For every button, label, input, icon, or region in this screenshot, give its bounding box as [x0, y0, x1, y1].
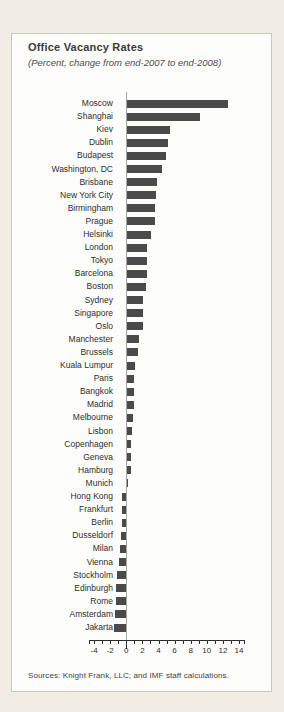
- vacancy-bar: [127, 388, 133, 396]
- vacancy-bar: [127, 113, 199, 121]
- city-label: Bangkok: [12, 385, 113, 398]
- bar-row: New York City: [12, 189, 271, 202]
- vacancy-bar: [127, 178, 157, 186]
- city-label: Paris: [12, 372, 113, 385]
- vacancy-bar: [127, 309, 143, 317]
- bar-row: Hong Kong: [12, 490, 271, 503]
- city-label: Brisbane: [12, 176, 113, 189]
- city-label: Kiev: [12, 123, 113, 136]
- bar-row: Kiev: [12, 123, 271, 136]
- bar-row: Frankfurt: [12, 503, 271, 516]
- bar-row: Washington, DC: [12, 163, 271, 176]
- bar-row: Shanghai: [12, 110, 271, 123]
- bar-row: Geneva: [12, 451, 271, 464]
- vacancy-bar: [122, 506, 126, 514]
- vacancy-bar: [122, 519, 126, 527]
- city-label: Oslo: [12, 320, 113, 333]
- vacancy-bar: [127, 139, 168, 147]
- vacancy-bar: [127, 440, 131, 448]
- bar-row: Edinburgh: [12, 582, 271, 595]
- vacancy-bar: [116, 597, 126, 605]
- vacancy-bar: [127, 191, 156, 199]
- vacancy-bar: [127, 296, 143, 304]
- vacancy-bar: [116, 584, 126, 592]
- x-tick-label: 14: [229, 646, 249, 655]
- vacancy-bar: [114, 624, 126, 632]
- vacancy-bar: [127, 283, 146, 291]
- bar-row: Boston: [12, 280, 271, 293]
- city-label: London: [12, 241, 113, 254]
- vacancy-bar: [127, 270, 146, 278]
- bar-row: Barcelona: [12, 267, 271, 280]
- city-label: Geneva: [12, 451, 113, 464]
- city-label: Dublin: [12, 136, 113, 149]
- city-label: Munich: [12, 477, 113, 490]
- bar-row: London: [12, 241, 271, 254]
- vacancy-bar: [127, 152, 166, 160]
- bar-row: Madrid: [12, 398, 271, 411]
- x-tick: [110, 640, 111, 644]
- vacancy-bar: [122, 493, 126, 501]
- vacancy-bar: [127, 257, 146, 265]
- x-tick: [134, 640, 135, 644]
- vacancy-bar: [127, 204, 154, 212]
- city-label: Dusseldorf: [12, 529, 113, 542]
- vacancy-bar: [127, 479, 128, 487]
- city-label: Hong Kong: [12, 490, 113, 503]
- city-label: Lisbon: [12, 425, 113, 438]
- city-label: Barcelona: [12, 267, 113, 280]
- vacancy-bar: [120, 545, 126, 553]
- x-tick: [191, 640, 192, 644]
- bar-row: Jakarta: [12, 621, 271, 634]
- city-label: Milan: [12, 542, 113, 555]
- bar-row: Melbourne: [12, 411, 271, 424]
- city-label: Kuala Lumpur: [12, 359, 113, 372]
- bar-row: Prague: [12, 215, 271, 228]
- vacancy-bar: [119, 558, 126, 566]
- x-tick: [167, 640, 168, 644]
- city-label: Amsterdam: [12, 608, 113, 621]
- vacancy-bar: [117, 571, 126, 579]
- bar-row: Vienna: [12, 556, 271, 569]
- vacancy-bar: [127, 401, 133, 409]
- bar-row: Stockholm: [12, 569, 271, 582]
- city-label: Copenhagen: [12, 438, 113, 451]
- bar-row: Hamburg: [12, 464, 271, 477]
- city-label: Madrid: [12, 398, 113, 411]
- x-tick: [244, 640, 245, 644]
- x-tick: [207, 640, 208, 644]
- vacancy-bar: [127, 362, 135, 370]
- bar-row: Brussels: [12, 346, 271, 359]
- x-tick: [199, 640, 200, 644]
- bar-row: Birmingham: [12, 202, 271, 215]
- city-label: Birmingham: [12, 202, 113, 215]
- vacancy-bar: [115, 610, 126, 618]
- bar-row: Budapest: [12, 149, 271, 162]
- x-tick: [215, 640, 216, 644]
- x-tick: [223, 640, 224, 644]
- city-label: Vienna: [12, 556, 113, 569]
- chart-panel: Office Vacancy Rates (Percent, change fr…: [11, 33, 272, 692]
- x-tick: [118, 640, 119, 644]
- x-tick: [183, 640, 184, 644]
- bar-row: Oslo: [12, 320, 271, 333]
- bar-row: Lisbon: [12, 425, 271, 438]
- chart-subtitle: (Percent, change from end-2007 to end-20…: [28, 57, 221, 68]
- bar-row: Manchester: [12, 333, 271, 346]
- bar-row: Sydney: [12, 294, 271, 307]
- vacancy-bar: [127, 375, 133, 383]
- city-label: Frankfurt: [12, 503, 113, 516]
- vacancy-bar: [127, 414, 133, 422]
- bar-row: Bangkok: [12, 385, 271, 398]
- vacancy-bar: [127, 322, 143, 330]
- bar-row: Singapore: [12, 307, 271, 320]
- x-tick: [239, 640, 240, 644]
- bar-row: Brisbane: [12, 176, 271, 189]
- city-label: Washington, DC: [12, 163, 113, 176]
- x-tick: [231, 640, 232, 644]
- bar-row: Munich: [12, 477, 271, 490]
- x-tick: [159, 640, 160, 644]
- vacancy-bar: [121, 532, 126, 540]
- x-tick: [89, 640, 90, 644]
- city-label: Rome: [12, 595, 113, 608]
